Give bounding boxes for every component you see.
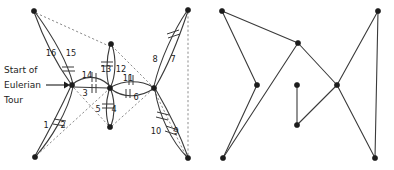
- edge-label-16: 16: [46, 48, 56, 58]
- arrow-right-icon: [46, 82, 70, 89]
- right-graph-vertices: [219, 8, 380, 160]
- r-vertex-top-mid: [295, 40, 300, 45]
- r-edge-midleft-bottomleft: [223, 85, 257, 158]
- edge-label-9: 9: [173, 126, 178, 136]
- edge-label-2: 2: [60, 120, 65, 130]
- r-vertex-bottom-right: [372, 155, 377, 160]
- r-edge-midright-bottomright: [337, 85, 375, 158]
- figure-canvas: 1 2 3 4 5 6 7 8 9 10 11 12 13 14 15 16 S…: [0, 0, 394, 170]
- vertex-bottom-left: [32, 154, 37, 159]
- edge-label-13: 13: [101, 64, 111, 74]
- r-edge-topright-bottomright: [375, 11, 378, 158]
- vertex-hub-center: [107, 85, 112, 90]
- r-vertex-mid-right: [334, 82, 339, 87]
- r-edge-topleft-midleft: [222, 11, 257, 85]
- vertex-hub-left: [69, 82, 74, 87]
- r-vertex-top-right: [375, 8, 380, 13]
- vertex-bottom-mid: [107, 124, 112, 129]
- right-graph-edges: [222, 11, 378, 158]
- caption-line-1: Start of: [4, 65, 38, 75]
- left-graph-vertices: [31, 7, 190, 160]
- solid-edges: [34, 11, 188, 157]
- edge-label-3: 3: [82, 88, 87, 98]
- vertex-top-right: [185, 7, 190, 12]
- edge-order-labels: 1 2 3 4 5 6 7 8 9 10 11 12 13 14 15 16: [43, 48, 178, 136]
- edge-10: [155, 90, 187, 157]
- caption-line-3: Tour: [3, 95, 23, 105]
- vertex-top-left: [31, 8, 36, 13]
- edge-label-8: 8: [152, 54, 157, 64]
- r-edge-topleft-topmid: [222, 11, 298, 43]
- tick-8: [167, 30, 179, 34]
- edge-2: [36, 87, 73, 156]
- left-graph: 1 2 3 4 5 6 7 8 9 10 11 12 13 14 15 16 S…: [3, 7, 191, 160]
- edge-8: [154, 11, 187, 86]
- edge-label-12: 12: [116, 64, 126, 74]
- r-edge-midright-topright: [337, 11, 378, 85]
- r-vertex-mid-left: [254, 82, 259, 87]
- r-vertex-mid-center: [294, 82, 299, 87]
- edge-label-10: 10: [151, 126, 161, 136]
- dashed-edge-hubright-bottomright: [154, 90, 186, 156]
- edge-3: [73, 87, 108, 88]
- r-vertex-bottom-mid: [294, 122, 299, 127]
- r-vertex-bottom-left: [220, 155, 225, 160]
- edge-label-15: 15: [66, 48, 76, 58]
- edge-label-6: 6: [133, 92, 138, 102]
- edge-label-14: 14: [82, 70, 92, 80]
- edge-label-1: 1: [43, 120, 48, 130]
- r-vertex-top-left: [219, 8, 224, 13]
- edge-label-4: 4: [111, 104, 116, 114]
- r-edge-bottommid-midright: [297, 85, 337, 125]
- start-of-tour-caption: Start of Eulerian Tour: [3, 65, 70, 105]
- edge-7: [156, 11, 188, 86]
- right-graph: [219, 8, 380, 160]
- r-edge-bottomleft-topmid: [223, 43, 298, 158]
- edge-label-7: 7: [170, 54, 175, 64]
- r-edge-topmid-midright: [298, 43, 337, 85]
- vertex-top-mid: [108, 41, 113, 46]
- eulerian-tour-figure: 1 2 3 4 5 6 7 8 9 10 11 12 13 14 15 16 S…: [0, 0, 394, 170]
- edge-6: [111, 89, 153, 96]
- edge-9: [156, 90, 188, 157]
- dashed-edge-hubleft-bottommid: [74, 88, 108, 125]
- edge-label-5: 5: [95, 104, 100, 114]
- tick-10: [157, 112, 169, 115]
- vertex-hub-right: [151, 85, 156, 90]
- vertex-bottom-right: [185, 155, 190, 160]
- caption-line-2: Eulerian: [4, 80, 41, 90]
- edge-label-11: 11: [123, 73, 133, 83]
